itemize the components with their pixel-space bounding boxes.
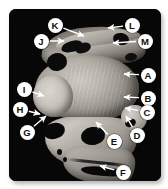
callout-label-d[interactable]: D (130, 128, 145, 143)
callout-label-f[interactable]: F (116, 165, 131, 180)
callout-label-l[interactable]: L (125, 18, 140, 33)
left-lobe-structure (33, 75, 73, 117)
callout-label-h[interactable]: H (13, 102, 28, 117)
foramen-marking-3 (53, 159, 56, 163)
callout-label-j[interactable]: J (34, 34, 49, 49)
foramen-marking-1 (57, 149, 62, 155)
image-panel: ABCDEFGHIJKLM (9, 9, 161, 181)
callout-label-i[interactable]: I (17, 82, 32, 97)
callout-label-e[interactable]: E (107, 134, 122, 149)
callout-label-g[interactable]: G (20, 125, 35, 140)
callout-label-a[interactable]: A (141, 68, 156, 83)
callout-label-k[interactable]: K (48, 18, 63, 33)
figure-root: ABCDEFGHIJKLM (0, 0, 168, 189)
mri-scan-image (9, 9, 161, 181)
callout-label-b[interactable]: B (141, 91, 156, 106)
callout-label-m[interactable]: M (138, 34, 153, 49)
callout-label-c[interactable]: C (140, 105, 155, 120)
